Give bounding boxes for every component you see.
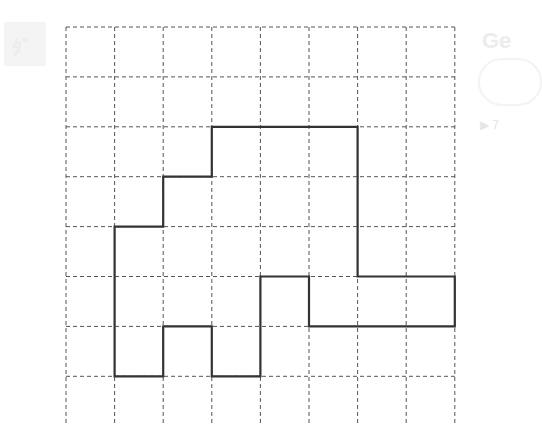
grid-polygon-shape [115, 127, 455, 376]
